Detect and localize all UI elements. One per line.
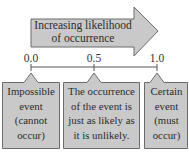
callout-line: (cannot [3, 113, 59, 128]
callout-line: of the event is [63, 99, 140, 114]
arrow-label-line2: of occurrence [31, 32, 135, 45]
callout-line: occur) [145, 128, 188, 143]
tick-label-0-5: 0.5 [82, 52, 106, 64]
callout-line: it is unlikely. [63, 128, 140, 143]
callout-text-impossible: Impossible event (cannot occur) [3, 84, 59, 142]
callout-line: (must [145, 113, 188, 128]
callout-line: Impossible [3, 84, 59, 99]
arrow-label-line1: Increasing likelihood [31, 19, 135, 32]
callout-line: event [145, 99, 188, 114]
callout-line: just as likely as [63, 113, 140, 128]
callout-line: event [3, 99, 59, 114]
tick-label-0: 0.0 [19, 52, 43, 64]
tick-label-1: 1.0 [145, 52, 169, 64]
arrow-label: Increasing likelihood of occurrence [31, 19, 135, 45]
callout-text-certain: Certain event (must occur) [145, 84, 188, 142]
callout-line: The occurrence [63, 84, 140, 99]
callout-line: Certain [145, 84, 188, 99]
callout-line: occur) [3, 128, 59, 143]
callout-text-even: The occurrence of the event is just as l… [63, 84, 140, 142]
